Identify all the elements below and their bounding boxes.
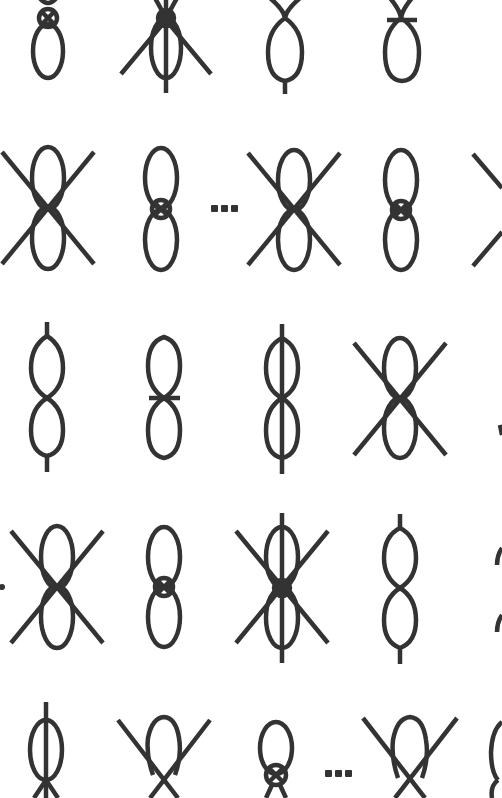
edge-fragment-icon — [497, 548, 502, 632]
figure8-circle-icon — [385, 150, 417, 270]
ellipsis-icon — [211, 205, 238, 212]
figure8-x-icon — [248, 150, 340, 270]
figure8-x-icon — [11, 526, 103, 648]
loop-crossed-lines-dot-icon — [121, 0, 211, 93]
figure8-x-vertical-dot-icon — [236, 513, 328, 663]
figure8-x-partial-icon — [473, 154, 502, 266]
figure8-bar-icon — [148, 337, 180, 458]
loop-twist-stem-icon — [268, 0, 302, 94]
loop-partial-icon — [491, 722, 502, 798]
loop-twist-bar-icon — [385, 0, 419, 81]
edge-dot-icon — [0, 584, 5, 590]
knot-pattern-canvas — [0, 0, 502, 798]
figure8-circle-icon — [148, 527, 180, 647]
figure8-x-icon — [354, 338, 446, 458]
figure8-stems-icon — [384, 514, 416, 664]
loop-crossed-circle-bottom-icon — [260, 722, 292, 798]
loop-x-icon — [118, 717, 210, 798]
loop-x-icon — [363, 717, 457, 798]
figure8-stems-icon — [31, 322, 63, 472]
loop-crossed-circle-icon — [33, 0, 63, 78]
figure8-vertical-line-icon — [266, 324, 298, 474]
figure8-circle-icon — [145, 148, 177, 270]
figure8-x-icon — [2, 147, 94, 269]
ellipsis-icon — [325, 770, 352, 777]
loop-vertical-line-icon — [30, 702, 62, 798]
